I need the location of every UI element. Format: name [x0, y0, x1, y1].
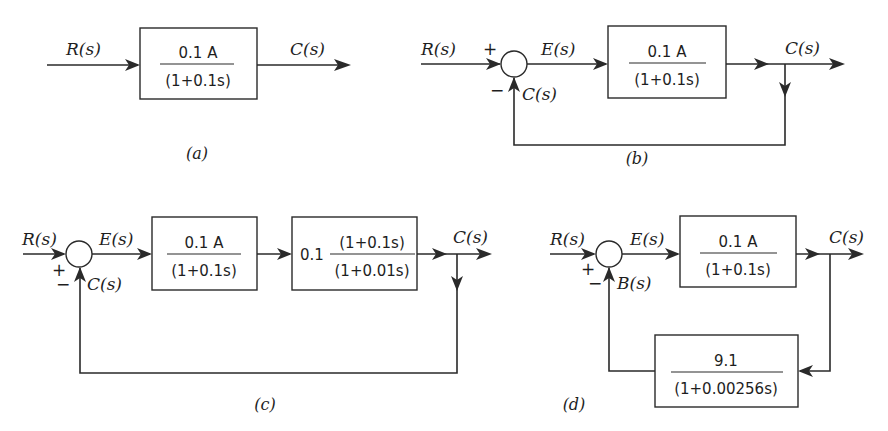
diagram-d: R(s) + − E(s) 0.1 A (1+0.1s) C(s) 9.1 (1… — [549, 216, 864, 414]
block-numerator: 9.1 — [714, 352, 738, 370]
block-numerator: 0.1 A — [719, 233, 759, 251]
block-numerator: 0.1 A — [185, 234, 225, 252]
block-numerator: (1+0.1s) — [339, 234, 405, 252]
caption-c: (c) — [254, 395, 275, 414]
block-numerator: 0.1 A — [179, 44, 219, 62]
minus-sign: − — [490, 80, 504, 100]
output-label: C(s) — [829, 227, 864, 247]
output-label: C(s) — [290, 39, 325, 59]
summing-junction — [66, 241, 92, 267]
plus-sign: + — [483, 39, 497, 59]
block-denominator: (1+0.1s) — [705, 261, 771, 279]
error-label: E(s) — [98, 229, 133, 249]
minus-sign: − — [588, 273, 602, 293]
diagram-b: R(s) + − E(s) 0.1 A (1+0.1s) C(s) C(s) (… — [420, 26, 845, 168]
caption-b: (b) — [626, 149, 649, 168]
summing-junction — [596, 241, 622, 267]
feedback-label: C(s) — [522, 84, 557, 104]
caption-d: (d) — [563, 395, 586, 414]
diagram-c: R(s) + − E(s) 0.1 A (1+0.1s) 0.1 (1+0.1s… — [21, 217, 492, 414]
block-numerator: 0.1 A — [648, 43, 688, 61]
input-label: R(s) — [21, 229, 57, 249]
error-label: E(s) — [540, 39, 575, 59]
output-label: C(s) — [453, 227, 488, 247]
block-denominator: (1+0.1s) — [634, 71, 700, 89]
diagram-a: R(s) 0.1 A (1+0.1s) C(s) (a) — [47, 28, 351, 163]
block-denominator: (1+0.00256s) — [674, 380, 778, 398]
block-gain: 0.1 — [300, 246, 324, 264]
feedback-path-to-block — [800, 254, 830, 371]
block-denominator: (1+0.1s) — [165, 72, 231, 90]
input-label: R(s) — [549, 229, 585, 249]
block-denominator: (1+0.01s) — [334, 262, 409, 280]
input-label: R(s) — [65, 39, 101, 59]
block-diagrams: R(s) 0.1 A (1+0.1s) C(s) (a) R(s) + − E(… — [0, 0, 888, 431]
output-label: C(s) — [785, 38, 820, 58]
feedback-label: C(s) — [87, 274, 122, 294]
caption-a: (a) — [186, 144, 208, 163]
summing-junction — [501, 51, 527, 77]
input-label: R(s) — [420, 39, 456, 59]
block-denominator: (1+0.1s) — [171, 262, 237, 280]
error-label: E(s) — [629, 229, 664, 249]
minus-sign: − — [56, 274, 70, 294]
feedback-label: B(s) — [616, 273, 651, 293]
